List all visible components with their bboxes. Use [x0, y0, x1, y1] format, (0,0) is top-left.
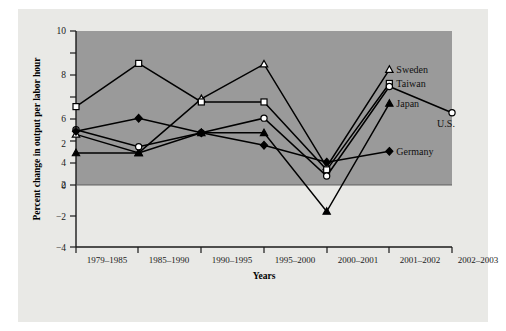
y-tick-label-6: 6: [61, 114, 66, 124]
data-point-taiwan-1: [136, 60, 142, 66]
data-point-us-5: [386, 83, 392, 89]
series-label-us: U.S.: [437, 118, 455, 129]
series-label-japan: Japan: [396, 98, 419, 109]
x-tick-label-6: 2002–2003: [458, 255, 499, 265]
y-tick-label-neg4: −4: [56, 243, 66, 253]
x-tick-label-1: 1985–1990: [149, 255, 190, 265]
x-tick-label-2: 1990–1995: [212, 255, 253, 265]
y-tick-label-8: 8: [61, 70, 66, 80]
series-label-germany: Germany: [396, 146, 433, 157]
y-axis-title: Percent change in output per labor hour: [32, 57, 42, 221]
y-tick-label-neg2: −2: [56, 212, 66, 222]
data-point-us-6: [449, 110, 455, 116]
series-label-sweden: Sweden: [396, 64, 428, 75]
y-tick-label-10: 10: [57, 26, 67, 36]
x-axis-ticks: [76, 247, 452, 253]
data-point-us-3: [261, 115, 267, 121]
y-axis-ticks: [70, 31, 76, 247]
x-tick-label-4: 2000–2001: [338, 255, 379, 265]
y-tick-label-2b: 2: [61, 139, 66, 149]
x-axis-title: Years: [253, 271, 276, 281]
y-tick-label-0: 0: [61, 181, 66, 191]
data-point-taiwan-3: [261, 99, 267, 105]
chart-plot-area: 10 8 6 4 2 2 0 −2 −4 Percent change in o…: [0, 0, 506, 331]
y-tick-label-4: 4: [61, 158, 66, 168]
x-tick-label-5: 2001–2002: [400, 255, 441, 265]
data-point-taiwan-0: [73, 104, 79, 110]
data-point-taiwan-2: [198, 99, 204, 105]
x-tick-label-0: 1979–1985: [87, 255, 128, 265]
figure-container: 10 8 6 4 2 2 0 −2 −4 Percent change in o…: [0, 0, 506, 331]
series-label-taiwan: Taiwan: [396, 78, 425, 89]
line-chart-svg: 10 8 6 4 2 2 0 −2 −4 Percent change in o…: [0, 0, 506, 331]
data-point-us-4: [324, 173, 330, 179]
x-tick-label-3: 1995–2000: [275, 255, 316, 265]
data-point-us-1: [136, 144, 142, 150]
